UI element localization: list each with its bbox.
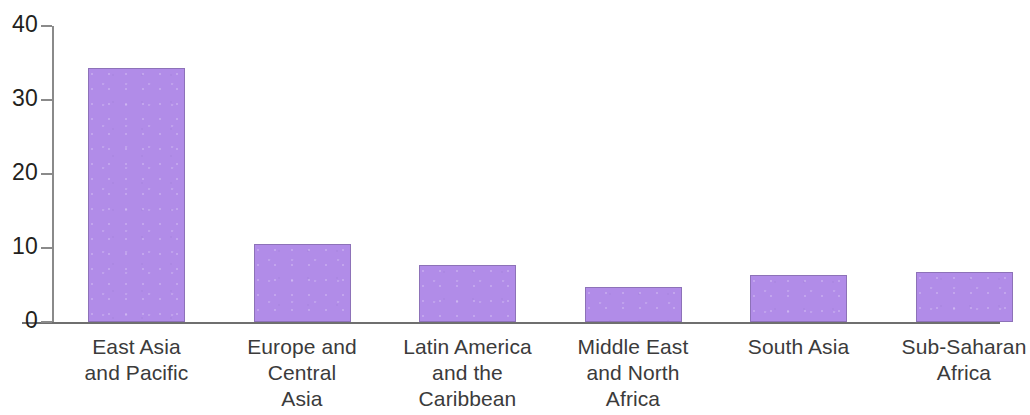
bar [585,287,682,322]
bar [254,244,351,322]
category-label-line: Africa [550,386,716,412]
category-label-line: Europe and [219,334,385,360]
category-label-line: Middle East [550,334,716,360]
y-tick-label-wrapper: 30 [0,87,38,111]
y-tick-label: 10 [0,235,38,258]
y-axis-line [52,26,54,323]
y-tick-label: 40 [0,13,38,36]
category-label-line: Caribbean [385,386,551,412]
y-tick-label: 30 [0,87,38,110]
x-axis-category-label: Europe andCentralAsia [219,334,385,412]
x-axis-category-label: East Asiaand Pacific [54,334,220,386]
category-label-line: Asia [219,386,385,412]
category-label-line: and Pacific [54,360,220,386]
bar [916,272,1013,322]
x-axis-category-label: South Asia [716,334,882,360]
bar [419,265,516,322]
y-tick-mark [41,25,52,27]
y-tick-mark [41,247,52,249]
category-label-line: and the [385,360,551,386]
category-label-line: and North [550,360,716,386]
x-axis-category-label: Middle Eastand NorthAfrica [550,334,716,412]
bar [88,68,185,322]
category-label-line: Latin America [385,334,551,360]
y-tick-label-wrapper: 40 [0,13,38,37]
x-axis-category-label: Sub-SaharanAfrica [881,334,1030,386]
category-label-line: East Asia [54,334,220,360]
y-tick-mark [41,99,52,101]
x-axis-line [22,322,1000,324]
y-tick-label-wrapper: 20 [0,161,38,185]
bar [750,275,847,322]
y-tick-mark [41,321,52,323]
y-tick-label-wrapper: 0 [0,309,38,333]
category-label-line: Sub-Saharan [881,334,1030,360]
y-tick-mark [41,173,52,175]
category-label-line: Central [219,360,385,386]
y-tick-label: 20 [0,161,38,184]
x-axis-category-label: Latin Americaand theCaribbean [385,334,551,412]
y-tick-label: 0 [0,309,38,332]
y-tick-label-wrapper: 10 [0,235,38,259]
category-label-line: South Asia [716,334,882,360]
category-label-line: Africa [881,360,1030,386]
